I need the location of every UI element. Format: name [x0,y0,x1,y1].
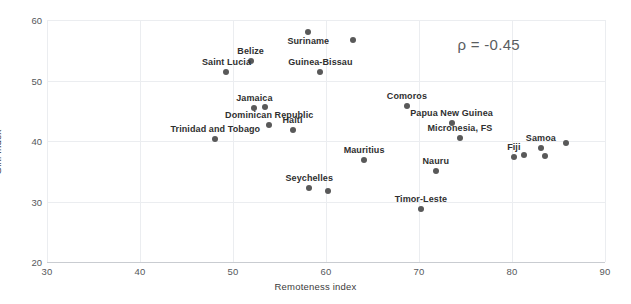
data-point[interactable] [262,104,268,110]
data-point[interactable] [457,135,463,141]
data-point-label: Trinidad and Tobago [170,124,260,134]
data-point-label: Micronesia, FS [427,123,492,133]
data-point[interactable] [418,206,424,212]
data-point-label: Haiti [283,115,303,125]
x-tick-label: 80 [507,266,518,277]
data-point[interactable] [290,127,296,133]
data-point-label: Jamaica [236,93,272,103]
data-point-label: Guinea-Bissau [288,57,352,67]
data-point-label: Saint Lucia [202,57,251,67]
data-point[interactable] [433,168,439,174]
data-point[interactable] [563,140,569,146]
y-tick-label: 30 [18,196,42,207]
y-axis-title: Gini Index [0,130,3,175]
gridline-vertical [605,20,606,262]
data-point-label: Comoros [387,91,427,101]
x-axis-title: Remoteness index [0,281,631,292]
data-point-label: Fiji [507,142,520,152]
y-tick-label: 60 [18,15,42,26]
y-tick-label: 20 [18,257,42,268]
x-tick-label: 30 [42,266,53,277]
gridline-horizontal [47,20,605,21]
data-point[interactable] [317,69,323,75]
data-point-label: Seychelles [285,173,333,183]
data-point[interactable] [511,154,517,160]
data-point[interactable] [266,122,272,128]
data-point-label: Belize [237,46,264,56]
data-point-label: Nauru [422,156,449,166]
data-point-label: Timor-Leste [395,194,447,204]
data-point[interactable] [361,157,367,163]
correlation-annotation: ρ = -0.45 [457,36,520,53]
y-tick-label: 40 [18,136,42,147]
x-tick-label: 40 [135,266,146,277]
plot-area: SurinameBelizeGuinea-BissauSaint LuciaJa… [47,20,605,262]
data-point[interactable] [306,185,312,191]
data-point-label: Samoa [526,133,556,143]
gridline-horizontal [47,81,605,82]
data-point[interactable] [223,69,229,75]
data-point[interactable] [542,153,548,159]
scatter-chart: SurinameBelizeGuinea-BissauSaint LuciaJa… [0,0,631,304]
data-point[interactable] [305,29,311,35]
x-tick-label: 50 [228,266,239,277]
data-point-label: Mauritius [344,145,385,155]
gridline-horizontal [47,141,605,142]
data-point[interactable] [538,145,544,151]
y-tick-label: 50 [18,75,42,86]
data-point[interactable] [521,152,527,158]
y-axis-ticks: 2030405060 [14,0,42,304]
x-tick-label: 60 [321,266,332,277]
data-point[interactable] [350,37,356,43]
x-tick-label: 90 [600,266,611,277]
x-tick-label: 70 [414,266,425,277]
data-point[interactable] [325,188,331,194]
data-point[interactable] [404,103,410,109]
gridline-horizontal [47,202,605,203]
data-point[interactable] [212,136,218,142]
data-point-label: Suriname [287,36,329,46]
data-point-label: Papua New Guinea [410,108,493,118]
x-axis-line [47,262,605,263]
